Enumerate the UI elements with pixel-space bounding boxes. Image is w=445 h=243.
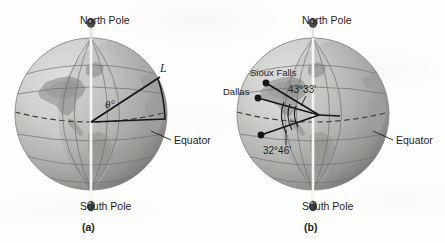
central-angle-label-a: θ° bbox=[105, 99, 115, 110]
dallas-angle-label-b: 32°46' bbox=[263, 146, 291, 156]
south-pole-label-a: South Pole bbox=[80, 201, 131, 212]
panel-b: North Pole Sioux Falls Dallas 43°33' 32°… bbox=[222, 0, 445, 243]
caption-a: (a) bbox=[82, 222, 95, 233]
sioux-falls-angle-label-b: 43°33' bbox=[288, 85, 316, 95]
panel-a: North Pole L θ° Equator South Pole (a) bbox=[0, 0, 223, 243]
arc-length-label-a: L bbox=[160, 63, 166, 75]
south-pole-label-b: South Pole bbox=[302, 201, 353, 212]
dallas-label-b: Dallas bbox=[223, 87, 249, 97]
equator-label-a: Equator bbox=[174, 135, 211, 146]
north-pole-label-b: North Pole bbox=[302, 15, 352, 26]
caption-b: (b) bbox=[304, 222, 317, 233]
north-pole-label-a: North Pole bbox=[80, 15, 130, 26]
equator-label-b: Equator bbox=[396, 135, 433, 146]
globe-latitude-figure: North Pole L θ° Equator South Pole (a) bbox=[0, 0, 445, 243]
dallas-marker-b bbox=[255, 95, 262, 102]
equator-point-marker-b bbox=[258, 132, 265, 139]
sioux-falls-marker-b bbox=[263, 80, 270, 87]
sioux-falls-label-b: Sioux Falls bbox=[250, 68, 296, 78]
